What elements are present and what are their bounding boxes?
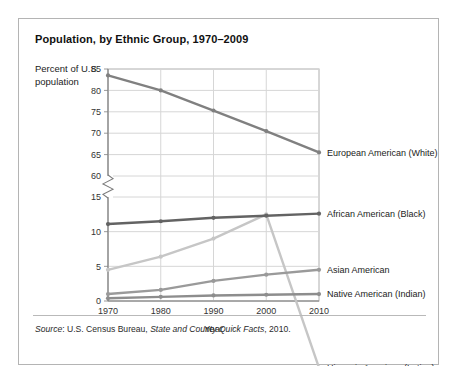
line-chart: 05101560657075808519701980199020002010Eu… [19,19,440,366]
y-tick-label: 65 [91,150,101,160]
y-tick-label: 80 [91,86,101,96]
y-tick-label: 75 [91,107,101,117]
y-tick-label: 60 [91,171,101,181]
data-point [159,295,163,299]
source-publication: State and County Quick Facts [150,324,264,334]
data-point [159,255,163,259]
y-tick-label: 70 [91,128,101,138]
data-point [211,108,215,112]
data-point [211,279,215,283]
data-point [159,88,163,92]
data-point [211,216,215,220]
data-point [159,288,163,292]
y-tick-label: 5 [96,262,101,272]
y-tick-label: 15 [91,192,101,202]
data-point [264,293,268,297]
y-tick-label: 10 [91,227,101,237]
data-point [106,292,110,296]
chart-figure: 05101560657075808519701980199020002010Eu… [19,19,440,366]
data-point [317,292,321,296]
source-agency: U.S. Census Bureau, [67,324,150,334]
data-point [264,273,268,277]
y-tick-label: 85 [91,64,101,74]
series-label: African American (Black) [327,209,426,219]
data-point [159,219,163,223]
data-point [317,212,321,216]
data-point [264,214,268,218]
y-tick-label: 0 [96,296,101,306]
data-point [106,268,110,272]
source-label: Source [35,324,62,334]
chart-card: Population, by Ethnic Group, 1970–2009 P… [18,18,439,365]
series-label: European American (White) [327,148,438,158]
source-note: Source: U.S. Census Bureau, State and Co… [35,324,291,334]
data-point [264,129,268,133]
data-point [317,268,321,272]
source-year: , 2010. [264,324,290,334]
series-label: Hispanic American (Latino) [327,363,435,366]
series-label: Asian American [327,265,390,275]
series-label: Native American (Indian) [327,289,426,299]
data-point [211,237,215,241]
data-point [317,150,321,154]
data-point [211,293,215,297]
data-point [106,296,110,300]
data-point [106,222,110,226]
data-point [106,73,110,77]
source-divider [33,315,426,316]
